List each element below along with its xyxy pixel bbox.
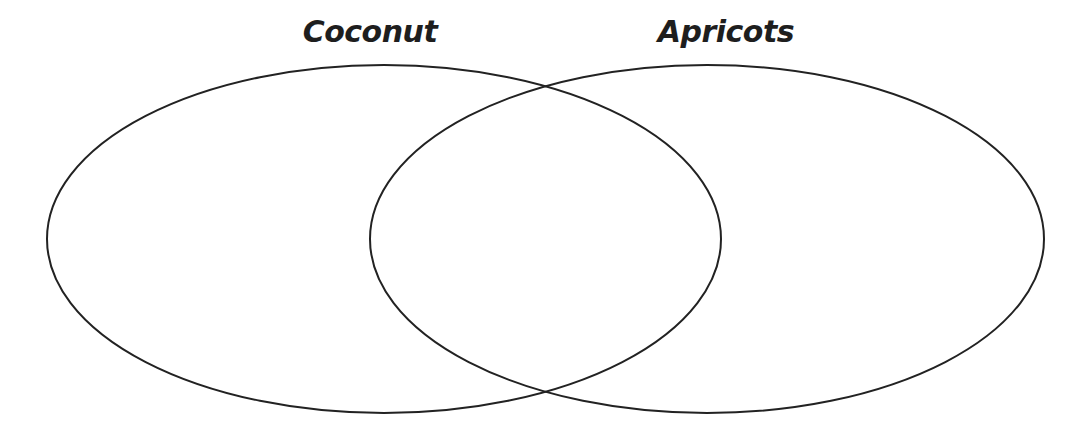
region-both: [450, 200, 640, 280]
venn-diagram: Coconut Apricots: [0, 0, 1083, 440]
apricots-set-label: Apricots: [658, 17, 794, 47]
region-apricots-only: [760, 200, 980, 280]
region-coconut-only: [120, 200, 340, 280]
coconut-set-label: Coconut: [303, 17, 438, 47]
